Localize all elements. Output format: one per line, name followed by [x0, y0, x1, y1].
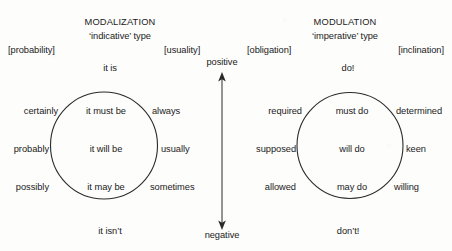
- modalization-usuality-low: sometimes: [150, 183, 195, 192]
- axis-label-positive: positive: [206, 58, 237, 67]
- diagram-artwork: [0, 0, 452, 251]
- modalization-probability-low: possibly: [16, 183, 49, 192]
- modulation-value-low: may do: [337, 183, 367, 192]
- bracket-probability: [probability]: [8, 46, 55, 55]
- modulation-title: MODULATION: [314, 18, 377, 27]
- modalization-negative-pole: it isn’t: [98, 227, 121, 236]
- modalization-subtitle: ‘indicative’ type: [89, 32, 151, 41]
- modalization-positive-pole: it is: [103, 64, 117, 73]
- polarity-axis-arrow: [218, 72, 226, 230]
- modalization-value-low: it may be: [87, 183, 124, 192]
- modulation-inclination-low: willing: [394, 183, 419, 192]
- modulation-value-high: must do: [336, 107, 369, 116]
- modalization-title: MODALIZATION: [85, 18, 156, 27]
- modulation-subtitle: ‘imperative’ type: [312, 32, 378, 41]
- modalization-probability-high: certainly: [24, 107, 58, 116]
- modality-diagram: MODALIZATION ‘indicative’ type MODULATIO…: [0, 0, 452, 251]
- modulation-obligation-median: supposed: [256, 145, 296, 154]
- modulation-inclination-high: determined: [396, 107, 442, 116]
- modulation-negative-pole: don’t!: [337, 227, 359, 236]
- modulation-value-median: will do: [339, 145, 364, 154]
- modulation-positive-pole: do!: [342, 64, 355, 73]
- axis-label-negative: negative: [205, 231, 240, 240]
- modulation-obligation-low: allowed: [265, 183, 296, 192]
- modulation-obligation-high: required: [268, 107, 302, 116]
- modalization-usuality-median: usually: [161, 145, 190, 154]
- modalization-value-median: it will be: [90, 145, 123, 154]
- modalization-usuality-high: always: [152, 107, 180, 116]
- modalization-probability-median: probably: [14, 145, 49, 154]
- modulation-inclination-median: keen: [406, 145, 426, 154]
- bracket-obligation: [obligation]: [247, 46, 291, 55]
- modalization-value-high: it must be: [86, 107, 126, 116]
- bracket-inclination: [inclination]: [398, 46, 444, 55]
- bracket-usuality: [usuality]: [164, 46, 200, 55]
